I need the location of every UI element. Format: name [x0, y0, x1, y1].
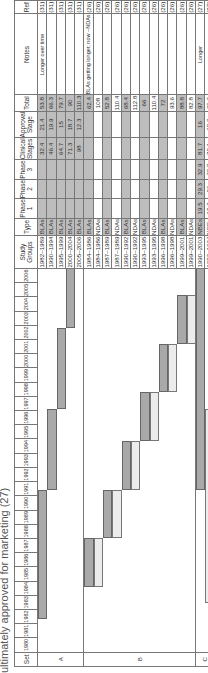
cell-p2 — [168, 179, 177, 198]
cell-approval — [84, 111, 93, 138]
cell-group: 1995–1999 — [56, 236, 65, 269]
cell-clinical: 81.7 — [196, 138, 205, 160]
cell-p3 — [149, 160, 158, 179]
cell-approval: 12.3 — [75, 111, 84, 138]
cell-p1: 12.3 — [205, 199, 208, 218]
cell-p3: 33.8 — [205, 160, 208, 179]
cell-total: 62.4 — [84, 95, 93, 111]
cell-p2 — [56, 179, 65, 198]
cell-p3 — [112, 160, 121, 179]
cell-clinical: 72.1 — [205, 138, 208, 160]
cell-type: BLAs — [84, 218, 93, 235]
cell-p3: 32.9 — [196, 160, 205, 179]
cell-type: NDAs — [93, 218, 102, 235]
cell-p2 — [93, 179, 102, 198]
development-times-table: Set 198019811982198319841985198619871988… — [14, 0, 208, 667]
year-header: 1982 — [15, 609, 38, 623]
cell-p3 — [158, 160, 167, 179]
clinical-stage-bar — [196, 269, 205, 490]
cell-clinical — [130, 138, 139, 160]
cell-total: 110.4 — [149, 95, 158, 111]
table-row: C1990–2003NBEs19.529.332.981.71697.7Long… — [196, 1, 205, 667]
cell-type: BLAs — [177, 218, 186, 235]
cell-clinical — [103, 138, 112, 160]
cell-group: 1990–1994 — [47, 236, 56, 269]
cell-p1 — [47, 199, 56, 218]
cell-ref: (27) — [205, 1, 208, 14]
cell-p2 — [112, 179, 121, 198]
cell-type: NDAs — [112, 218, 121, 235]
cell-p2 — [47, 179, 56, 198]
approval-stage-bar — [205, 409, 208, 603]
cell-approval — [149, 111, 158, 138]
cell-p1 — [158, 199, 167, 218]
cell-p2 — [103, 179, 112, 198]
cell-p3 — [177, 160, 186, 179]
cell-ref: (26) — [103, 1, 112, 14]
cell-notes — [56, 14, 65, 95]
year-header: 1994 — [15, 439, 38, 453]
clinical-stage-bar — [66, 269, 75, 328]
cell-type: BLAs — [75, 218, 84, 235]
cell-p2 — [84, 179, 93, 198]
cell-notes — [47, 14, 56, 95]
cell-total: 93.6 — [168, 95, 177, 111]
cell-approval: 19.9 — [47, 111, 56, 138]
year-header: 2005 — [15, 283, 38, 297]
cell-clinical: 98 — [75, 138, 84, 160]
cell-type: BLAs — [158, 218, 167, 235]
cell-notes — [121, 14, 130, 95]
cell-notes — [130, 14, 139, 95]
clinical-stage-bar — [103, 490, 112, 539]
clinical-stage-bar — [47, 409, 56, 490]
cell-p3 — [121, 160, 130, 179]
cell-group: 1993–1995 — [140, 236, 149, 269]
cell-group: 2005–2006 — [75, 236, 84, 269]
year-header: 1993 — [15, 453, 38, 467]
cell-p1 — [75, 199, 84, 218]
cell-ref: (27) — [196, 1, 205, 14]
cell-ref: (26) — [93, 1, 102, 14]
cell-ref: (26) — [140, 1, 149, 14]
cell-ref: (26) — [177, 1, 186, 14]
cell-p2: 29.3 — [196, 179, 205, 198]
cell-p1: 19.5 — [196, 199, 205, 218]
cell-type: BLAs — [121, 218, 130, 235]
cell-group: 1984–1986 — [93, 236, 102, 269]
cell-p1 — [38, 199, 47, 218]
header-total: Total — [15, 95, 38, 111]
clinical-stage-bar — [38, 490, 47, 620]
cell-ref: (26) — [112, 1, 121, 14]
cell-clinical — [84, 138, 93, 160]
rotated-table-page: ultimately approved for marketing (27) S… — [0, 0, 208, 673]
cell-p3 — [56, 160, 65, 179]
year-header: 1998 — [15, 382, 38, 396]
year-header: 1987 — [15, 538, 38, 552]
cell-approval: 18.2 — [205, 111, 208, 138]
cell-notes — [140, 14, 149, 95]
cell-clinical — [121, 138, 130, 160]
year-header: 1997 — [15, 396, 38, 410]
cell-p1 — [103, 199, 112, 218]
cell-total: 110.3 — [75, 95, 84, 111]
clinical-stage-bar — [122, 441, 131, 490]
cell-clinical — [186, 138, 195, 160]
cell-notes — [168, 14, 177, 95]
cell-notes — [149, 14, 158, 95]
cell-group: 1987–1989 — [112, 236, 121, 269]
clinical-stage-bar — [177, 295, 186, 344]
year-header: 1988 — [15, 524, 38, 538]
cell-total: 112.8 — [130, 95, 139, 111]
cell-group: 2000–2004 — [65, 236, 74, 269]
cell-ref: (31) — [56, 1, 65, 14]
cell-p2 — [158, 179, 167, 198]
approval-stage-bar — [187, 295, 196, 344]
cell-notes — [158, 14, 167, 95]
cell-p3 — [47, 160, 56, 179]
cell-type: BLAs — [38, 218, 47, 235]
cell-type: NDAs — [168, 218, 177, 235]
cell-clinical — [93, 138, 102, 160]
cell-p1 — [186, 199, 195, 218]
cell-approval: 15 — [56, 111, 65, 138]
cell-clinical: 46.4 — [47, 138, 56, 160]
